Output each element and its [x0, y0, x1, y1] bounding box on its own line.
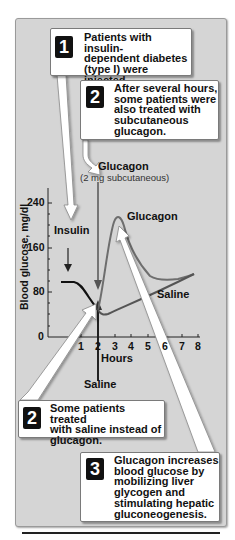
y-tick-0: 0 [38, 330, 44, 342]
x-tick-4: 4 [128, 340, 134, 352]
callout-2-saline-text: Some patients treated with saline instea… [50, 403, 164, 446]
step-badge-3: 3 [86, 458, 104, 480]
callout-2-saline: 2 Some patients treated with saline inst… [18, 400, 165, 438]
x-tick-7: 7 [179, 340, 185, 352]
callout-2-glucagon-text: After several hours, some patients were … [114, 83, 217, 137]
saline-curve-label: Saline [157, 288, 189, 300]
glucagon-dose-label: (2 mg subcutaneous) [80, 172, 169, 183]
callout-3-text: Glucagon increases blood glucose by mobi… [114, 455, 219, 519]
glucagon-curve-label: Glucagon [127, 210, 178, 222]
x-tick-1: 1 [78, 340, 84, 352]
callout-1: 1 Patients with insulin- dependent diabe… [50, 28, 192, 76]
x-tick-6: 6 [162, 340, 168, 352]
insulin-arrow [64, 248, 72, 272]
insulin-label: Insulin [54, 224, 89, 236]
callout-2-glucagon: 2 After several hours, some patients wer… [80, 80, 219, 140]
callout-3: 3 Glucagon increases blood glucose by mo… [80, 452, 220, 522]
y-tick-160: 160 [27, 241, 45, 253]
x-tick-3: 3 [112, 340, 118, 352]
glucagon-injection-arrow [94, 182, 102, 290]
y-axis-label: Blood glucose, mg/dl [18, 218, 30, 310]
bottom-divider [22, 532, 220, 534]
x-tick-8: 8 [195, 340, 201, 352]
step-badge-2-saline: 2 [23, 407, 41, 429]
x-tick-5: 5 [145, 340, 151, 352]
saline-injection-label: Saline [84, 378, 116, 390]
y-tick-240: 240 [27, 196, 45, 208]
pointer-box1-to-insulin [52, 75, 78, 220]
step-badge-1: 1 [55, 36, 73, 58]
x-tick-2: 2 [95, 340, 101, 352]
y-tick-80: 80 [33, 285, 45, 297]
x-axis-label: Hours [101, 352, 133, 364]
step-badge-2: 2 [86, 86, 104, 108]
glucagon-injection-label: Glucagon [98, 160, 149, 172]
